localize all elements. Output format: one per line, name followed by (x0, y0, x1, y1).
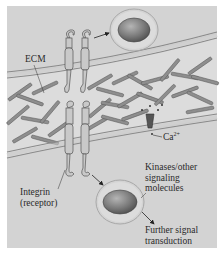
kinases-label-line1: Kinases/other (145, 162, 197, 173)
further-label-line2: transduction (145, 236, 198, 247)
calcium-charge: 2+ (174, 131, 180, 137)
further-label: Further signal transduction (145, 225, 198, 246)
calcium-label: Ca2+ (163, 132, 180, 143)
further-label-line1: Further signal (145, 225, 198, 236)
kinases-label-line3: molecules (145, 183, 197, 194)
calcium-symbol: Ca (163, 132, 174, 142)
upper-signaling-vesicle (110, 9, 158, 51)
integrin-signaling-diagram: ECM Ca2+ Kinases/other signaling molecul… (0, 0, 222, 265)
kinases-label-line2: signaling (145, 173, 197, 184)
kinases-label: Kinases/other signaling molecules (145, 162, 197, 194)
integrin-label: Integrin (receptor) (20, 187, 57, 208)
integrin-label-line2: (receptor) (20, 198, 57, 209)
integrin-label-line1: Integrin (20, 187, 57, 198)
ecm-label: ECM (25, 54, 46, 65)
lower-signaling-vesicle (96, 180, 144, 224)
